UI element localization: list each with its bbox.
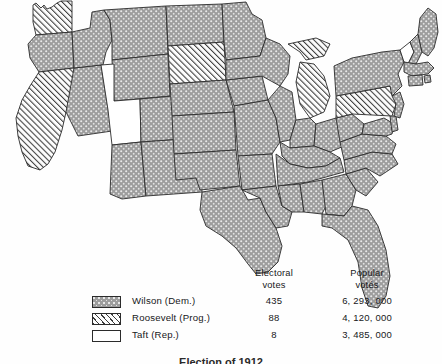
state-id xyxy=(72,10,112,68)
legend-popular-roosevelt: 4, 120, 000 xyxy=(324,312,410,323)
legend-swatch-taft xyxy=(92,330,121,342)
state-mn xyxy=(222,2,266,60)
map-legend: Electoral votes Popular votés Wilson (De… xyxy=(92,268,440,345)
state-ct xyxy=(408,75,423,86)
legend-electoral-roosevelt: 88 xyxy=(238,312,310,323)
state-me xyxy=(418,8,438,56)
legend-popular-wilson: 6, 293, 000 xyxy=(324,295,410,306)
legend-header-electoral-line1: Electoral xyxy=(238,268,310,280)
legend-header-popular-line2: votés xyxy=(324,280,410,292)
state-wy xyxy=(112,54,170,101)
legend-electoral-taft: 8 xyxy=(238,329,310,340)
state-sd xyxy=(168,42,226,84)
legend-electoral-wilson: 435 xyxy=(238,295,310,306)
election-map-figure: Electoral votes Popular votés Wilson (De… xyxy=(0,0,442,364)
legend-header-electoral: Electoral votes xyxy=(238,268,310,291)
state-al xyxy=(300,180,326,214)
state-ca xyxy=(16,68,78,170)
legend-column-headers: Electoral votes Popular votés xyxy=(92,268,440,294)
state-ks xyxy=(172,112,236,154)
state-az xyxy=(110,142,146,199)
legend-header-electoral-line2: votes xyxy=(238,280,310,292)
state-wa xyxy=(33,1,72,35)
state-mt xyxy=(104,6,168,60)
state-ar xyxy=(238,154,276,190)
legend-row-wilson: Wilson (Dem.) 435 6, 293, 000 xyxy=(92,294,440,311)
state-ri xyxy=(424,75,431,83)
state-ny xyxy=(334,50,404,96)
state-ma xyxy=(404,62,434,76)
state-md xyxy=(362,118,394,136)
legend-swatch-wilson xyxy=(92,296,121,308)
legend-header-popular-line1: Popular xyxy=(324,268,410,280)
state-ne xyxy=(170,80,234,116)
figure-caption: Election of 1912 xyxy=(0,356,442,364)
state-nd xyxy=(166,4,224,46)
legend-label-taft: Taft (Rep.) xyxy=(132,329,179,340)
legend-row-roosevelt: Roosevelt (Prog.) 88 4, 120, 000 xyxy=(92,311,440,328)
legend-header-popular: Popular votés xyxy=(324,268,410,291)
legend-label-wilson: Wilson (Dem.) xyxy=(132,295,195,306)
state-or xyxy=(28,32,74,72)
legend-label-roosevelt: Roosevelt (Prog.) xyxy=(132,312,210,323)
legend-swatch-roosevelt xyxy=(92,313,121,325)
legend-popular-taft: 3, 485, 000 xyxy=(324,329,410,340)
legend-row-taft: Taft (Rep.) 8 3, 485, 000 xyxy=(92,328,440,345)
